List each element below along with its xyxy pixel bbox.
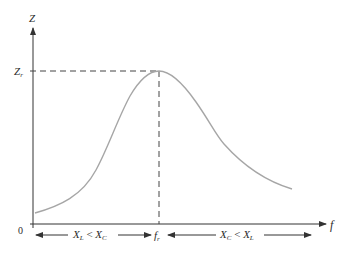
right-region-label: XC < XL bbox=[220, 229, 254, 242]
left-region-a: X bbox=[73, 228, 80, 240]
right-region-op: < bbox=[231, 228, 243, 240]
zr-label: Zr bbox=[14, 66, 23, 79]
y-axis-label-text: Z bbox=[29, 12, 35, 24]
left-region-op: < bbox=[84, 228, 96, 240]
fr-label-sub: r bbox=[157, 235, 160, 243]
right-region-b: X bbox=[243, 228, 250, 240]
y-axis-label: Z bbox=[29, 13, 35, 24]
origin-label-text: 0 bbox=[18, 225, 23, 236]
zr-label-sub: r bbox=[20, 71, 23, 79]
impedance-curve bbox=[35, 71, 292, 213]
resonance-diagram bbox=[0, 0, 346, 257]
x-axis-label: f bbox=[330, 219, 333, 231]
left-region-b-sub: C bbox=[102, 234, 107, 242]
origin-label: 0 bbox=[18, 226, 23, 236]
left-region-label: XL < XC bbox=[73, 229, 107, 242]
x-axis-label-text: f bbox=[330, 218, 333, 232]
fr-label: fr bbox=[154, 230, 160, 243]
right-region-b-sub: L bbox=[250, 234, 254, 242]
right-region-a: X bbox=[220, 228, 227, 240]
